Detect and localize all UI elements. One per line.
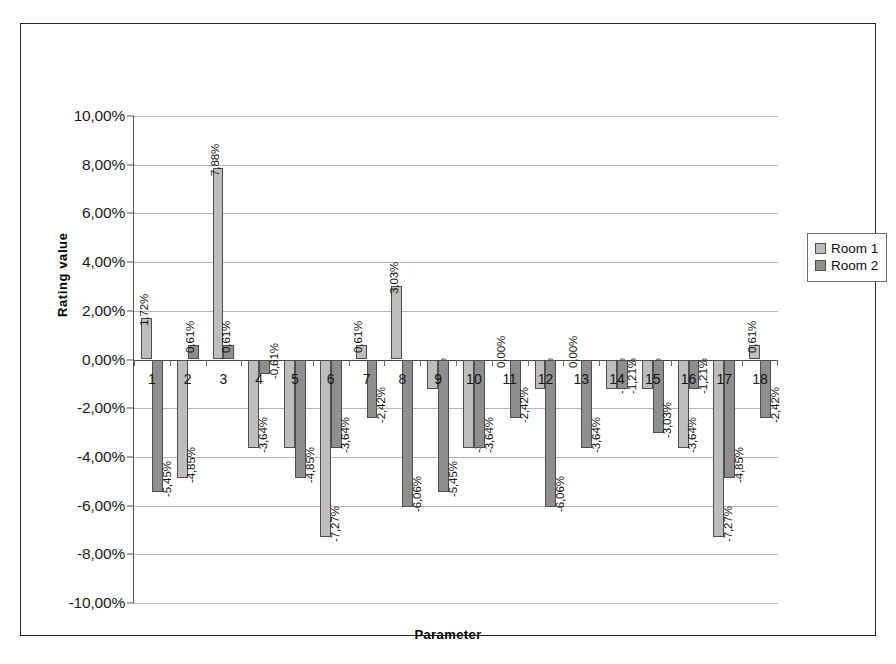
y-axis-tick-mark: [127, 262, 134, 263]
y-axis-tick-mark: [127, 359, 134, 360]
y-axis-tick-mark: [127, 505, 134, 506]
bar-value-label: 0,61%: [352, 321, 364, 353]
x-axis-tick-mark: [420, 360, 421, 366]
x-axis-category-label: 9: [420, 371, 456, 387]
bar-group: -1,21%-3,03%15: [635, 116, 671, 603]
bar-group: 0,00%-2,42%11: [492, 116, 528, 603]
y-axis-tick-label: -4,00%: [77, 448, 134, 466]
bar-value-label: -7,27%: [722, 506, 734, 542]
x-axis-category-label: 16: [671, 371, 707, 387]
legend-swatch-room-1: [815, 243, 826, 254]
bar-value-label: -4,85%: [185, 447, 197, 483]
x-axis-tick-mark: [456, 360, 457, 366]
x-axis-category-label: 15: [635, 371, 671, 387]
bar-value-label: 7,88%: [209, 144, 221, 176]
y-axis-tick-label: 10,00%: [74, 107, 134, 125]
y-axis-tick-mark: [127, 456, 134, 457]
x-axis-tick-mark: [777, 360, 778, 366]
x-axis-tick-mark: [528, 360, 529, 366]
bar-room-1-8[interactable]: [391, 286, 402, 360]
y-axis-tick-mark: [127, 554, 134, 555]
plot-area: 10,00%8,00%6,00%4,00%2,00%0,00%-2,00%-4,…: [133, 116, 778, 603]
bar-group: 0,00%-3,64%13: [563, 116, 599, 603]
bar-value-label: 0,00%: [495, 335, 507, 367]
y-axis-tick-label: -10,00%: [69, 594, 134, 612]
x-axis-category-label: 2: [170, 371, 206, 387]
bar-group: -1,21%-5,45%9: [420, 116, 456, 603]
y-axis-tick-mark: [127, 213, 134, 214]
bar-value-label: 1,72%: [138, 294, 150, 326]
bar-group: -3,64%-3,64%10: [456, 116, 492, 603]
x-axis-tick-mark: [563, 360, 564, 366]
bar-group: 3,03%-6,06%8: [384, 116, 420, 603]
x-axis-category-label: 8: [384, 371, 420, 387]
bar-group: -3,64%-1,21%16: [671, 116, 707, 603]
x-axis-tick-mark: [206, 360, 207, 366]
y-axis-tick-mark: [127, 310, 134, 311]
x-axis-tick-mark: [671, 360, 672, 366]
bar-group: -3,64%-4,85%5: [277, 116, 313, 603]
y-axis-tick-mark: [127, 408, 134, 409]
bar-value-label: -7,27%: [329, 506, 341, 542]
y-axis-tick-label: -2,00%: [77, 399, 134, 417]
bar-group: -4,85%0,61%2: [170, 116, 206, 603]
bar-value-label: 0,61%: [184, 321, 196, 353]
y-axis-title: Rating value: [55, 233, 70, 318]
y-axis-tick-mark: [127, 116, 134, 117]
x-axis-category-label: 3: [206, 371, 242, 387]
bar-group: -7,27%-3,64%6: [313, 116, 349, 603]
x-axis-tick-mark: [241, 360, 242, 366]
x-axis-tick-mark: [706, 360, 707, 366]
x-axis-category-label: 12: [528, 371, 564, 387]
bar-group: 1,72%-5,45%1: [134, 116, 170, 603]
y-axis-tick-label: -8,00%: [77, 545, 134, 563]
gridline: [134, 603, 778, 604]
y-axis-tick-label: -6,00%: [77, 497, 134, 515]
x-axis-category-label: 4: [241, 371, 277, 387]
x-axis-category-label: 13: [563, 371, 599, 387]
bar-group: 0,61%-2,42%7: [349, 116, 385, 603]
legend-item-room-1: Room 1: [815, 241, 880, 256]
bar-group: 0,61%-2,42%18: [742, 116, 778, 603]
x-axis-category-label: 14: [599, 371, 635, 387]
chart-legend: Room 1 Room 2: [807, 233, 887, 282]
x-axis-tick-mark: [170, 360, 171, 366]
legend-label-room-2: Room 2: [831, 258, 878, 273]
bar-value-label: 0,00%: [567, 335, 579, 367]
x-axis-tick-mark: [635, 360, 636, 366]
x-axis-category-label: 10: [456, 371, 492, 387]
x-axis-tick-mark: [742, 360, 743, 366]
y-axis-tick-mark: [127, 603, 134, 604]
x-axis-category-label: 5: [277, 371, 313, 387]
legend-label-room-1: Room 1: [831, 241, 878, 256]
chart-frame: Rating value 10,00%8,00%6,00%4,00%2,00%0…: [20, 23, 876, 636]
x-axis-tick-mark: [599, 360, 600, 366]
x-axis-tick-mark: [349, 360, 350, 366]
bar-group: -7,27%-4,85%17: [706, 116, 742, 603]
bar-group: -1,21%-1,21%14: [599, 116, 635, 603]
x-axis-category-label: 17: [706, 371, 742, 387]
bar-value-label: 3,03%: [388, 262, 400, 294]
bar-value-label: 0,61%: [746, 321, 758, 353]
x-axis-tick-mark: [134, 360, 135, 366]
legend-item-room-2: Room 2: [815, 258, 880, 273]
legend-swatch-room-2: [815, 260, 826, 271]
y-axis-tick-mark: [127, 164, 134, 165]
bar-group: 7,88%0,61%3: [206, 116, 242, 603]
bar-value-label: -3,64%: [686, 417, 698, 453]
x-axis-category-label: 7: [349, 371, 385, 387]
x-axis-tick-mark: [277, 360, 278, 366]
x-axis-category-label: 11: [492, 371, 528, 387]
bar-value-label: 0,61%: [220, 321, 232, 353]
x-axis-category-label: 18: [742, 371, 778, 387]
bar-value-label: -3,64%: [257, 417, 269, 453]
x-axis-title: Parameter: [21, 627, 875, 642]
bar-group: -3,64%-0,61%4: [241, 116, 277, 603]
bar-value-label: -2,42%: [769, 388, 781, 424]
bar-group: -1,21%-6,06%12: [528, 116, 564, 603]
x-axis-category-label: 1: [134, 371, 170, 387]
x-axis-category-label: 6: [313, 371, 349, 387]
x-axis-tick-mark: [492, 360, 493, 366]
x-axis-tick-mark: [384, 360, 385, 366]
x-axis-tick-mark: [313, 360, 314, 366]
